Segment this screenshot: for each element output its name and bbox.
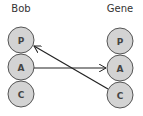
gene-node-a: A xyxy=(107,55,133,81)
node-label: A xyxy=(18,63,25,73)
node-label: C xyxy=(117,91,124,101)
node-label: P xyxy=(117,37,124,47)
gene-node-c: C xyxy=(107,82,133,108)
bob-node-c: C xyxy=(8,81,34,107)
gene-node-p: P xyxy=(107,28,133,54)
transaction-diagram: Bob Gene P A C P A xyxy=(0,0,143,116)
diagram-canvas: P A C P A C xyxy=(0,0,143,116)
node-label: C xyxy=(18,90,25,100)
node-label: P xyxy=(18,36,25,46)
node-label: A xyxy=(117,64,124,74)
bob-node-a: A xyxy=(8,54,34,80)
bob-node-p: P xyxy=(8,27,34,53)
